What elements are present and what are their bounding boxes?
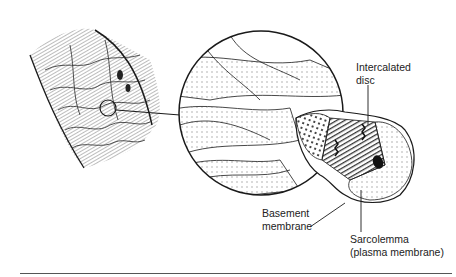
label-line: disc	[356, 74, 411, 87]
label-basement-membrane: Basement membrane	[262, 207, 312, 232]
label-sarcolemma: Sarcolemma (plasma membrane)	[350, 233, 444, 258]
label-line: membrane	[262, 220, 312, 233]
label-intercalated-disc: Intercalated disc	[356, 61, 411, 86]
label-line: (plasma membrane)	[350, 246, 444, 259]
label-line: Intercalated	[356, 61, 411, 74]
fiber-cross-section	[296, 110, 414, 203]
tissue-block	[30, 29, 160, 168]
label-line: Sarcolemma	[350, 233, 444, 246]
basement-membrane-leader	[310, 203, 345, 227]
bottom-rule	[20, 273, 452, 274]
label-line: Basement	[262, 207, 312, 220]
